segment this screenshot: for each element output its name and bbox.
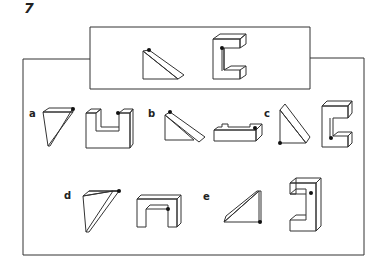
option-b[interactable]: b [148, 108, 262, 142]
option-c[interactable]: c [264, 101, 352, 147]
option-e-block [290, 178, 321, 231]
option-label-c: c [264, 108, 270, 119]
option-a[interactable]: a [29, 107, 133, 148]
option-a-block [86, 109, 133, 148]
option-d[interactable]: d [64, 189, 181, 232]
option-label-a: a [29, 108, 36, 119]
option-e-wedge [224, 191, 262, 224]
option-d-block [137, 195, 181, 227]
option-label-d: d [64, 190, 71, 201]
option-label-b: b [148, 108, 155, 119]
reference-box [90, 27, 310, 89]
option-a-wedge [43, 107, 75, 146]
option-c-wedge [278, 104, 310, 145]
option-d-wedge [83, 189, 121, 232]
option-e[interactable]: e [203, 178, 321, 231]
reference-wedge [143, 48, 184, 79]
option-b-block [214, 124, 262, 141]
option-label-e: e [203, 191, 210, 202]
option-c-block [322, 101, 352, 147]
reference-c-block [213, 34, 246, 79]
option-b-wedge [165, 110, 205, 142]
puzzle-diagram: a b c [0, 0, 383, 268]
answer-frame [23, 58, 364, 255]
